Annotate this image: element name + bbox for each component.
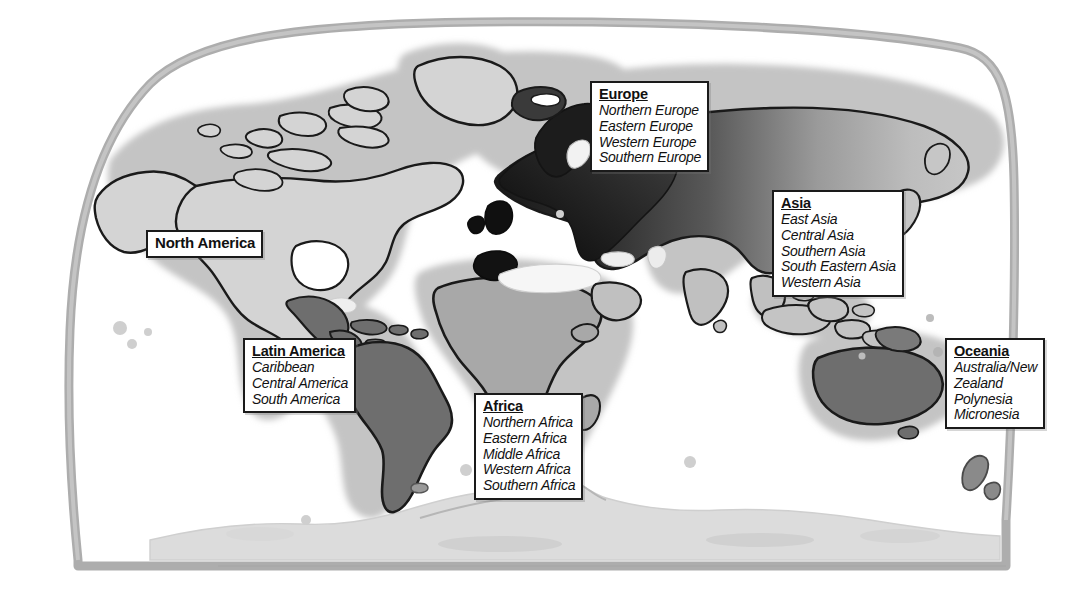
region-label-africa[interactable]: Africa Northern Africa Eastern Africa Mi… [474, 393, 583, 500]
subregion-list-asia: East Asia Central Asia Southern Asia Sou… [781, 212, 896, 290]
region-title-north-america: North America [155, 235, 255, 252]
subregion-item: South America [252, 392, 348, 408]
region-title-latin-america: Latin America [252, 343, 348, 359]
region-label-asia[interactable]: Asia East Asia Central Asia Southern Asi… [772, 190, 904, 297]
subregion-item: Western Europe [599, 135, 701, 151]
subregion-item: Northern Africa [483, 415, 575, 431]
world-map-graphic [0, 0, 1088, 599]
region-label-latin-america[interactable]: Latin America Caribbean Central America … [243, 338, 356, 413]
subregion-item: Middle Africa [483, 447, 575, 463]
subregion-item: Southern Asia [781, 244, 896, 260]
subregion-item: Southern Africa [483, 478, 575, 494]
subregion-list-latin-america: Caribbean Central America South America [252, 360, 348, 407]
subregion-item: Eastern Africa [483, 431, 575, 447]
subregion-item: Central America [252, 376, 348, 392]
subregion-item: Eastern Europe [599, 119, 701, 135]
subregion-item: South Eastern Asia [781, 259, 896, 275]
subregion-item: Australia/New [954, 360, 1037, 376]
subregion-item: East Asia [781, 212, 896, 228]
subregion-item: Northern Europe [599, 103, 701, 119]
subregion-item: Western Asia [781, 275, 896, 291]
subregion-item: Southern Europe [599, 150, 701, 166]
region-title-asia: Asia [781, 195, 896, 211]
region-title-africa: Africa [483, 398, 575, 414]
subregion-item: Caribbean [252, 360, 348, 376]
subregion-item: Micronesia [954, 407, 1037, 423]
subregion-item: Central Asia [781, 228, 896, 244]
subregion-list-africa: Northern Africa Eastern Africa Middle Af… [483, 415, 575, 493]
world-region-map: North America Latin America Caribbean Ce… [0, 0, 1088, 599]
region-title-oceania: Oceania [954, 343, 1037, 359]
region-label-oceania[interactable]: Oceania Australia/New Zealand Polynesia … [945, 338, 1045, 429]
region-label-north-america[interactable]: North America [146, 230, 263, 258]
subregion-item: Zealand [954, 376, 1037, 392]
subregion-list-europe: Northern Europe Eastern Europe Western E… [599, 103, 701, 166]
region-label-europe[interactable]: Europe Northern Europe Eastern Europe We… [590, 81, 709, 172]
subregion-item: Polynesia [954, 392, 1037, 408]
subregion-item: Western Africa [483, 462, 575, 478]
region-title-europe: Europe [599, 86, 701, 102]
subregion-list-oceania: Australia/New Zealand Polynesia Micrones… [954, 360, 1037, 423]
